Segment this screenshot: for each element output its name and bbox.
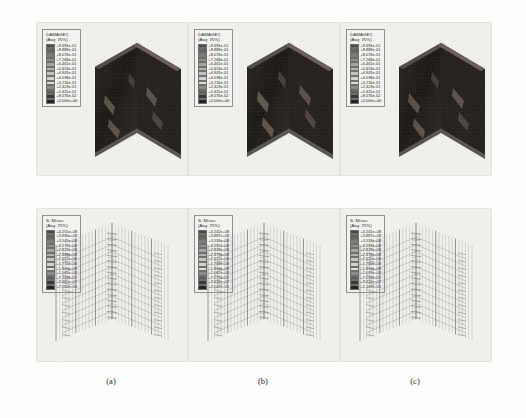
legend-subtitle: (Avg: 75%) (350, 37, 381, 42)
panel-mises-b: S, Mises (Avg: 75%) +4.242e+08+3.887e+08… (188, 208, 340, 362)
chevron-mesh-svg (93, 33, 185, 165)
panel-mises-c: S, Mises (Avg: 75%) +4.241e+08+3.887e+08… (340, 208, 492, 362)
panel-damagec-c: DAMAGEC (Avg: 75%) +9.691e-01+8.883e-01+… (340, 22, 492, 176)
rebar-cage-svg (356, 215, 476, 357)
legend-entry: +0.000e+00 (46, 99, 77, 104)
model-solid-chevron-c (397, 33, 489, 165)
chevron-mesh-svg (245, 33, 337, 165)
legend-swatch (350, 99, 359, 104)
panel-damagec-a: DAMAGEC (Avg: 75%) +9.691e-01+8.883e-01+… (36, 22, 188, 176)
legend-ramp: +9.691e-01+8.883e-01+8.076e-01+7.268e-01… (198, 44, 229, 104)
legend-ramp: +9.691e-01+8.883e-01+8.076e-01+7.268e-01… (46, 44, 77, 104)
legend-damagec-b: DAMAGEC (Avg: 75%) +9.691e-01+8.883e-01+… (194, 29, 233, 107)
model-solid-chevron-a (93, 33, 185, 165)
figure-grid: DAMAGEC (Avg: 75%) +9.691e-01+8.883e-01+… (0, 0, 526, 418)
legend-ramp: +9.691e-01+8.883e-01+8.076e-01+7.268e-01… (350, 44, 381, 104)
rebar-cage-svg (52, 215, 172, 357)
caption-b: (b) (233, 376, 293, 386)
rebar-cage-svg (204, 215, 324, 357)
caption-a: (a) (81, 376, 141, 386)
legend-subtitle: (Avg: 75%) (46, 37, 77, 42)
legend-entry: +0.000e+00 (198, 99, 229, 104)
legend-damagec-a: DAMAGEC (Avg: 75%) +9.691e-01+8.883e-01+… (42, 29, 81, 107)
legend-swatch (198, 99, 207, 104)
caption-c: (c) (385, 376, 445, 386)
legend-subtitle: (Avg: 75%) (198, 37, 229, 42)
legend-swatch (46, 99, 55, 104)
model-rebar-cage-c (356, 215, 476, 357)
legend-value: +0.000e+00 (209, 99, 230, 104)
legend-value: +0.000e+00 (361, 99, 382, 104)
panel-mises-a: S, Mises (Avg: 75%) +4.255e+08+3.930e+08… (36, 208, 188, 362)
legend-value: +0.000e+00 (57, 99, 78, 104)
legend-entry: +0.000e+00 (350, 99, 381, 104)
legend-damagec-c: DAMAGEC (Avg: 75%) +9.691e-01+8.883e-01+… (346, 29, 385, 107)
chevron-mesh-svg (397, 33, 489, 165)
model-solid-chevron-b (245, 33, 337, 165)
model-rebar-cage-a (52, 215, 172, 357)
panel-damagec-b: DAMAGEC (Avg: 75%) +9.691e-01+8.883e-01+… (188, 22, 340, 176)
model-rebar-cage-b (204, 215, 324, 357)
